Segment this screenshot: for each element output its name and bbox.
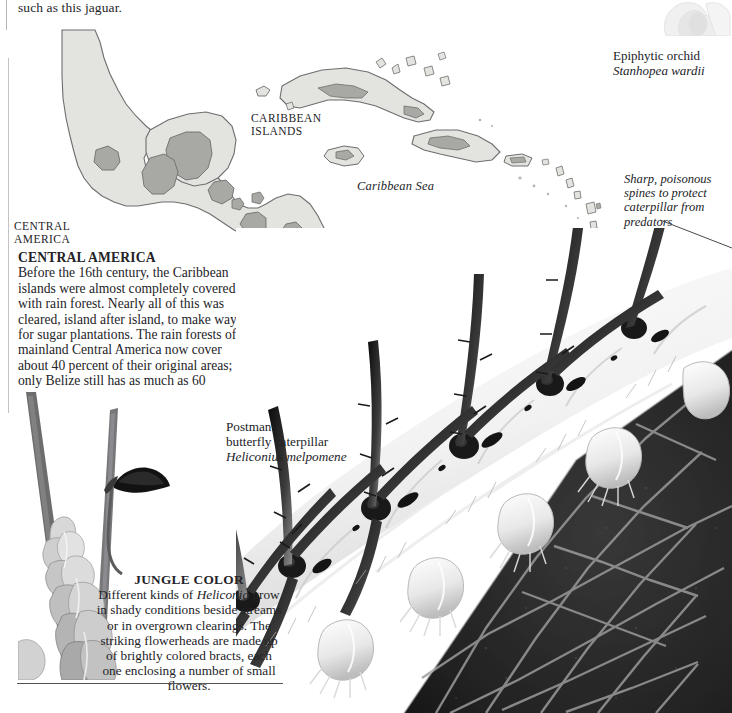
caption-central-america-body: Before the 16th century, the Caribbean i…	[18, 265, 237, 403]
caption-jungle-color-body-part1: Different kinds of	[98, 587, 196, 602]
map-label-central-america: CENTRAL AMERICA	[14, 220, 70, 246]
label-postman-species: Heliconius melpomene	[226, 449, 346, 464]
label-postman-line2: butterfly caterpillar	[226, 434, 346, 449]
top-running-text: such as this jaguar.	[18, 0, 122, 16]
map-label-caribbean-sea: Caribbean Sea	[357, 180, 434, 193]
postman-butterfly-caterpillar-photo	[236, 228, 732, 713]
label-postman-caterpillar: Postman butterfly caterpillar Heliconius…	[226, 419, 346, 464]
label-epiphytic-orchid-common: Epiphytic orchid	[613, 49, 705, 64]
label-epiphytic-orchid: Epiphytic orchid Stanhopea wardii	[613, 49, 705, 78]
map-label-caribbean-islands: CARIBBEAN ISLANDS	[251, 112, 322, 138]
caption-jungle-color-body-part2: grow in shady conditions beside streams …	[97, 587, 282, 693]
page-root: such as this jaguar.	[0, 0, 732, 713]
left-margin-rule	[6, 0, 7, 30]
map-label-central-america-line1: CENTRAL	[14, 220, 70, 233]
map-label-central-america-line2: AMERICA	[14, 233, 70, 246]
caption-central-america-heading: CENTRAL AMERICA	[18, 250, 250, 265]
label-postman-line1: Postman	[226, 419, 346, 434]
map-label-caribbean-islands-line1: CARIBBEAN	[251, 112, 322, 125]
caption-jungle-color-heading: JUNGLE COLOR	[96, 572, 282, 587]
label-epiphytic-orchid-species: Stanhopea wardii	[613, 64, 705, 79]
map-label-caribbean-islands-line2: ISLANDS	[251, 125, 322, 138]
epiphytic-orchid-photo	[636, 0, 732, 36]
leader-line-spines	[660, 218, 732, 250]
caption-jungle-color-genus: Heliconia	[197, 587, 249, 602]
caption-jungle-color: JUNGLE COLORDifferent kinds of Heliconia…	[96, 572, 282, 694]
caption-central-america: CENTRAL AMERICA Before the 16th century,…	[18, 250, 250, 404]
bottom-divider-rule	[17, 683, 283, 684]
